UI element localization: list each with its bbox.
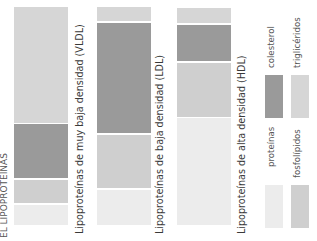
chart-title-fragment: EL LIPOPROTEÍNAS xyxy=(0,153,9,238)
segment-ldl-proteinas xyxy=(97,190,151,225)
segment-hdl-fosfolipidos xyxy=(177,63,231,117)
segment-vldl-proteinas xyxy=(14,205,68,225)
segment-hdl-trigliceridos xyxy=(177,8,231,23)
legend-swatch-trigliceridos xyxy=(291,75,309,118)
bar-label-vldl: Lipoproteínas de muy baja densidad (VLDL… xyxy=(74,24,85,234)
segment-vldl-fosfolipidos xyxy=(14,180,68,203)
segment-ldl-trigliceridos xyxy=(97,7,151,21)
legend-swatch-proteinas xyxy=(265,185,283,228)
legend-label-fosfolipidos: fosfolípidos xyxy=(292,129,302,178)
segment-vldl-trigliceridos xyxy=(14,7,68,123)
bar-label-ldl: Lipoproteínas de baja densidad (LDL) xyxy=(154,55,165,234)
segment-vldl-colesterol xyxy=(14,124,68,178)
bar-label-hdl: Lipoproteínas de alta densidad (HDL) xyxy=(236,55,247,234)
segment-hdl-proteinas xyxy=(177,118,231,225)
legend-label-colesterol: colesterol xyxy=(266,26,276,68)
segment-hdl-colesterol xyxy=(177,25,231,61)
segment-ldl-colesterol xyxy=(97,23,151,133)
legend-label-proteinas: proteínas xyxy=(266,127,276,167)
legend-swatch-fosfolipidos xyxy=(291,185,309,228)
legend-label-trigliceridos: triglicéridos xyxy=(292,17,302,68)
segment-ldl-fosfolipidos xyxy=(97,135,151,188)
legend-swatch-colesterol xyxy=(265,75,283,118)
